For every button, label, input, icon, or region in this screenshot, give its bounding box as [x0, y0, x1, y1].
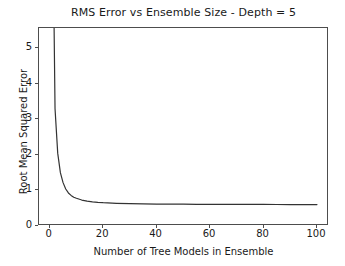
x-tick-label: 0	[29, 229, 69, 239]
y-tick-label: 5	[6, 42, 32, 52]
rmse-curve	[52, 28, 317, 205]
x-axis-label: Number of Tree Models in Ensemble	[38, 246, 329, 257]
x-tick-label: 40	[136, 229, 176, 239]
y-tick-label: 2	[6, 149, 32, 159]
x-tick-label: 60	[189, 229, 229, 239]
y-axis-tick-labels: 012345	[0, 0, 32, 266]
x-tick-mark	[102, 225, 103, 228]
chart-title: RMS Error vs Ensemble Size - Depth = 5	[38, 6, 329, 19]
x-tick-label: 100	[296, 229, 336, 239]
x-tick-mark	[156, 225, 157, 228]
x-tick-mark	[49, 225, 50, 228]
x-tick-mark	[209, 225, 210, 228]
data-line-svg	[39, 28, 329, 226]
y-tick-label: 4	[6, 78, 32, 88]
x-tick-mark	[263, 225, 264, 228]
y-tick-label: 3	[6, 113, 32, 123]
chart-figure: RMS Error vs Ensemble Size - Depth = 5 R…	[0, 0, 345, 266]
x-tick-label: 20	[82, 229, 122, 239]
plot-area	[38, 27, 328, 225]
y-tick-label: 1	[6, 184, 32, 194]
x-tick-mark	[316, 225, 317, 228]
x-tick-label: 80	[243, 229, 283, 239]
y-tick-mark	[35, 225, 38, 226]
